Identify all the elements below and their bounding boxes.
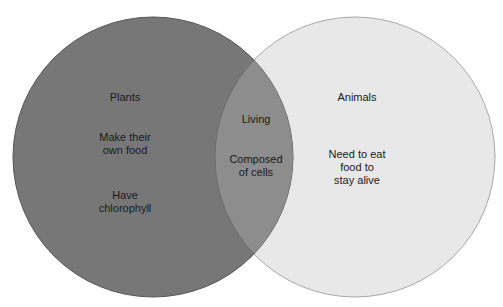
animals-item-eat-food: Need to eat food to stay alive <box>329 148 386 187</box>
animals-title: Animals <box>337 91 376 104</box>
overlap-item-cells: Composed of cells <box>229 153 282 179</box>
plants-item-chlorophyll: Have chlorophyll <box>99 189 152 215</box>
plants-title: Plants <box>110 91 141 104</box>
plants-item-make-food: Make their own food <box>99 131 150 157</box>
overlap-item-living: Living <box>242 113 271 126</box>
